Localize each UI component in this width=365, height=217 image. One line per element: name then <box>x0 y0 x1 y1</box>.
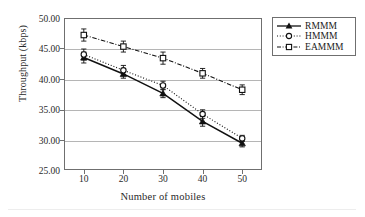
gridline <box>65 110 261 111</box>
y-tick-label: 30.00 <box>4 136 60 146</box>
x-tick-label: 30 <box>148 174 178 184</box>
y-tick-label: 40.00 <box>4 75 60 85</box>
legend: RMMM HMMM EAMMM <box>272 17 356 56</box>
x-tick-label: 10 <box>69 174 99 184</box>
y-tick-label: 50.00 <box>4 14 60 24</box>
y-tick-label: 25.00 <box>4 166 60 176</box>
legend-item-eammm[interactable]: EAMMM <box>276 42 352 52</box>
legend-item-hmmm[interactable]: HMMM <box>276 31 352 41</box>
gridline <box>65 80 261 81</box>
y-tick-label: 35.00 <box>4 105 60 115</box>
x-tick-label: 40 <box>188 174 218 184</box>
page-rule <box>8 209 356 210</box>
x-axis-title: Number of mobiles <box>64 191 262 202</box>
x-tick-label: 20 <box>108 174 138 184</box>
gridline <box>65 141 261 142</box>
hmmm-line-marker-icon <box>276 31 302 41</box>
legend-label: RMMM <box>305 21 337 31</box>
plot-area <box>64 18 262 170</box>
legend-label: EAMMM <box>305 42 344 52</box>
legend-label: HMMM <box>305 31 338 41</box>
rmmm-line-marker-icon <box>276 21 302 31</box>
eammm-line-marker-icon <box>276 42 302 52</box>
chart-figure: Throughput (kbps) 50.00 45.00 40.00 35.0… <box>0 0 365 217</box>
y-tick-label: 45.00 <box>4 44 60 54</box>
gridline <box>65 49 261 50</box>
x-tick-label: 50 <box>227 174 257 184</box>
legend-item-rmmm[interactable]: RMMM <box>276 21 352 31</box>
